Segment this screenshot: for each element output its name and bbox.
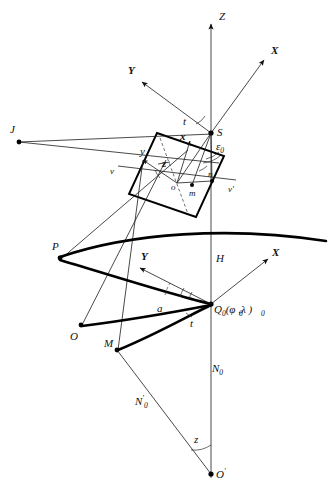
point-marker-j (17, 140, 22, 145)
upper-x-axis-line (211, 60, 264, 133)
point-label-m: m (189, 188, 196, 198)
point-label-v-right: v' (228, 184, 235, 194)
point-label-o: o (171, 182, 176, 192)
horizon-curve-upper (60, 233, 326, 257)
point-label-q0-subscripts: 0 (239, 309, 243, 318)
point-marker-m (190, 183, 194, 187)
angle-arc-isocentre (199, 166, 207, 171)
ground-points-group: P O M Q0(φ ,λ ) 0 0 (51, 240, 265, 352)
point-label-j: J (10, 123, 16, 135)
axis-label-x-upper: X (270, 44, 279, 56)
height-segment-group: H (215, 252, 225, 264)
z-axis-group: Z (211, 10, 226, 478)
point-marker-o-ground (79, 323, 84, 328)
plane-diagonal-dashed (160, 138, 188, 214)
point-label-n: n (208, 169, 213, 179)
angle-label-a: a (157, 302, 163, 314)
ray-to-o-ground (82, 160, 166, 325)
point-label-s: S (217, 126, 223, 138)
angle-arc-z (191, 445, 211, 450)
upper-axes-group: X Y (128, 44, 279, 133)
point-label-q0: Q0(φ ,λ ) (214, 303, 252, 318)
photo-axis-label-y: y (139, 145, 145, 157)
diagram-canvas: Z X Y t ε0 J (0, 0, 333, 490)
axis-label-y-lower: Y (141, 250, 149, 262)
ground-surface-curves (60, 233, 326, 350)
segment-label-n0-prime: N'0 (134, 394, 148, 410)
angle-label-z: z (193, 433, 199, 445)
point-marker-p (58, 256, 63, 261)
point-label-p: P (51, 240, 59, 252)
curve-p-to-q0 (60, 260, 211, 304)
angle-label-t-upper: t (183, 115, 187, 127)
earth-radii-group: N0 N'0 z O' (117, 350, 226, 480)
segment-label-n0: N0 (211, 362, 223, 377)
point-s-group: S (208, 126, 223, 138)
point-label-o-prime: O' (216, 467, 226, 480)
technical-diagram-svg: Z X Y t ε0 J (0, 0, 333, 490)
point-label-o-ground: O (70, 330, 78, 342)
point-label-m-ground: M (103, 337, 114, 349)
axis-label-x-lower: X (271, 246, 280, 258)
upper-y-axis-line (142, 82, 211, 133)
angle-label-t-lower: t (190, 317, 194, 329)
photo-x-axis-arrow (177, 141, 190, 183)
segment-label-h: H (215, 252, 225, 264)
angle-arcs-at-s: t ε0 (183, 115, 224, 163)
point-marker-o-prime (208, 471, 213, 476)
axis-label-z: Z (219, 10, 226, 22)
point-label-q0-subscripts-2: 0 (261, 309, 265, 318)
axis-label-y-upper: Y (128, 64, 136, 76)
photo-axis-label-x: x (179, 130, 186, 142)
point-label-v-left: v (110, 166, 114, 176)
lower-x-axis-line (211, 259, 268, 304)
lower-axes-group: X Y (140, 246, 280, 304)
radius-n0-prime-line (117, 350, 211, 474)
baseline-o-m-n (177, 181, 212, 183)
curve-m-to-q0 (118, 305, 211, 350)
